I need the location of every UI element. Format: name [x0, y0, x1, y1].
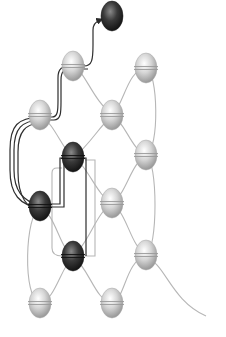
bead-body [101, 288, 123, 318]
light-bead [134, 140, 158, 170]
bead-body [62, 241, 84, 271]
bead-body [62, 142, 84, 172]
bead-body [62, 51, 84, 81]
bead-body [135, 240, 157, 270]
light-bead [134, 240, 158, 270]
light-bead [100, 188, 124, 218]
dark-bead [61, 241, 85, 271]
light-bead [28, 100, 52, 130]
light-bead [61, 51, 85, 81]
dark-bead [28, 191, 52, 221]
bead-body [135, 53, 157, 83]
bead-body [101, 100, 123, 130]
thread-tail [146, 258, 206, 316]
bead-body [29, 100, 51, 130]
light-bead [100, 288, 124, 318]
bead-body [135, 140, 157, 170]
bead-body [29, 288, 51, 318]
highlight-thread-group [10, 20, 100, 256]
highlight-thread [14, 69, 88, 205]
light-bead [134, 53, 158, 83]
dark-bead [101, 1, 123, 31]
light-bead [100, 100, 124, 130]
bead-body [101, 1, 123, 31]
bead-weave-diagram [0, 0, 226, 337]
bead-body [101, 188, 123, 218]
bead-body [29, 191, 51, 221]
diagram-canvas [0, 0, 226, 337]
